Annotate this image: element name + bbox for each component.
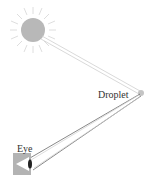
rainbow-diagram [0,0,158,185]
droplet-label: Droplet [98,90,129,100]
eye-pupil-icon [28,160,32,169]
outgoing-light-beam [30,94,141,170]
sun-disk [21,18,45,42]
incoming-light-beam [41,36,140,94]
eye-label: Eye [17,144,33,154]
outgoing-light-beam-inner [31,95,140,168]
